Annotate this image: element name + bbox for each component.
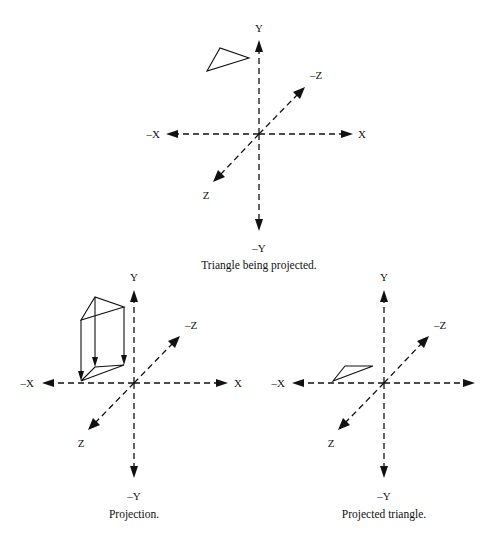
figure-top: Y –Y X –X –Z Z Triangle being projected. xyxy=(146,22,366,272)
caption-bottom-left: Projection. xyxy=(109,508,159,521)
neg-z-label: –Z xyxy=(184,319,198,331)
neg-y-label: –Y xyxy=(376,490,391,502)
projection-arrow-icon xyxy=(121,355,127,365)
z-label: Z xyxy=(203,189,210,201)
z-axis xyxy=(220,134,259,175)
x-arrow-icon xyxy=(463,379,475,387)
y-arrow-icon xyxy=(255,40,263,52)
neg-x-label: –X xyxy=(146,128,161,140)
neg-z-axis xyxy=(384,343,422,383)
caption-bottom-right: Projected triangle. xyxy=(342,508,426,521)
neg-y-arrow-icon xyxy=(255,219,263,231)
projected-triangle-shape xyxy=(333,366,373,381)
y-label: Y xyxy=(255,22,263,34)
neg-y-arrow-icon xyxy=(380,466,388,478)
neg-x-label: –X xyxy=(271,377,286,389)
neg-z-axis xyxy=(259,94,298,134)
neg-x-arrow-icon xyxy=(166,130,178,138)
x-arrow-icon xyxy=(216,379,228,387)
x-arrow-icon xyxy=(341,130,353,138)
neg-z-axis xyxy=(134,343,173,383)
y-label: Y xyxy=(380,271,388,283)
projection-diagram: Y –Y X –X –Z Z Triangle being projected.… xyxy=(0,0,492,537)
y-arrow-icon xyxy=(130,290,138,302)
z-axis xyxy=(95,383,134,423)
neg-y-label: –Y xyxy=(126,490,141,502)
neg-z-label: –Z xyxy=(309,69,323,81)
neg-z-label: –Z xyxy=(433,319,447,331)
y-label: Y xyxy=(130,271,138,283)
neg-x-arrow-icon xyxy=(42,379,54,387)
z-label: Z xyxy=(328,437,335,449)
caption-top: Triangle being projected. xyxy=(201,259,317,272)
figure-bottom-left: Y –Y X –X –Z Z Projection. xyxy=(20,271,242,521)
triangle-shape xyxy=(207,48,249,71)
neg-y-arrow-icon xyxy=(130,466,138,478)
z-label: Z xyxy=(78,437,85,449)
y-arrow-icon xyxy=(380,290,388,302)
neg-y-label: –Y xyxy=(251,242,266,254)
figure-bottom-right: Y –Y –X –Z Z Projected triangle. xyxy=(271,271,475,521)
source-triangle-shape xyxy=(81,297,124,320)
z-axis xyxy=(345,383,384,423)
x-label: X xyxy=(358,128,366,140)
projection-arrow-icon xyxy=(92,357,98,367)
neg-x-arrow-icon xyxy=(292,379,304,387)
x-label: X xyxy=(234,377,242,389)
neg-x-label: –X xyxy=(20,377,35,389)
projected-triangle-shape xyxy=(81,365,124,381)
